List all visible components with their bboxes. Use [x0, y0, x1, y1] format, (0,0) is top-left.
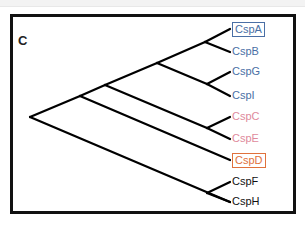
leaf-label-cspg: CspG — [232, 65, 260, 78]
tree-branch — [105, 85, 207, 128]
tree-branch — [207, 84, 230, 96]
leaf-label-cspd: CspD — [232, 153, 266, 168]
leaf-label-cspi: CspI — [232, 89, 255, 102]
tree-branch — [205, 42, 230, 52]
tree-branch — [207, 193, 230, 202]
leaf-label-cspc: CspC — [232, 110, 260, 123]
tree-branch — [207, 72, 230, 84]
tree-branch — [207, 117, 230, 128]
leaf-label-csph: CspH — [232, 195, 260, 208]
leaf-label-cspf: CspF — [232, 175, 258, 188]
tree-branch — [207, 128, 230, 139]
tree-branch — [207, 182, 230, 193]
tree-branch — [105, 63, 157, 85]
tree-branch — [30, 117, 230, 202]
tree-branch — [80, 85, 105, 96]
tree-branch — [157, 42, 205, 63]
leaf-label-cspa: CspA — [232, 22, 265, 37]
tree-branch — [30, 96, 80, 117]
tree-branch — [205, 29, 230, 42]
tree-branch — [157, 63, 207, 84]
leaf-label-cspe: CspE — [232, 132, 259, 145]
leaf-label-cspb: CspB — [232, 45, 259, 58]
